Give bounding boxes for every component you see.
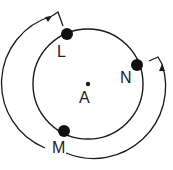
label-N: N	[120, 70, 132, 86]
circle-diagram: L N M A	[0, 0, 173, 170]
label-L: L	[57, 44, 66, 60]
arrow-M-to-N	[66, 64, 166, 159]
center-dot-A	[86, 82, 90, 86]
diagram-svg	[0, 0, 173, 170]
arrow-N-tick	[149, 57, 162, 64]
point-L	[61, 28, 73, 40]
point-N	[131, 59, 143, 71]
point-M	[58, 125, 70, 137]
arrowhead-L-icon	[45, 16, 52, 22]
arrow-M-to-L	[2, 16, 52, 148]
arrow-L-tick	[52, 12, 63, 26]
arrowhead-N-icon	[159, 64, 165, 71]
label-M: M	[52, 140, 65, 156]
label-A: A	[79, 90, 90, 106]
